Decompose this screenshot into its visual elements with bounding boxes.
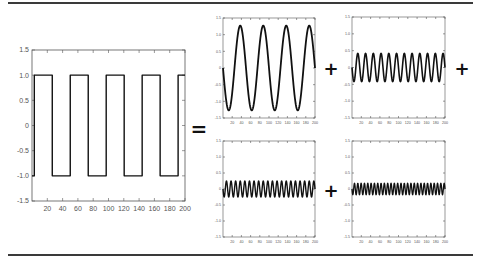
- harmonic-1-plot: 1.51.00.50-0.5-1.0-1.5204060801001201401…: [215, 16, 318, 124]
- equals-sign: =: [191, 117, 208, 141]
- y-tick-label: 0.5: [216, 50, 221, 54]
- y-tick-label: 1.5: [345, 15, 350, 19]
- x-tick-label: 100: [396, 240, 402, 244]
- x-tick-label: 120: [118, 205, 130, 212]
- y-tick-label: 0: [348, 187, 350, 191]
- x-tick-label: 60: [249, 121, 253, 125]
- y-tick-label: 1.5: [345, 139, 350, 143]
- y-tick-label: 0.5: [345, 171, 350, 175]
- x-tick-label: 140: [133, 205, 145, 212]
- x-tick-label: 180: [303, 240, 309, 244]
- plus-sign: +: [323, 180, 338, 201]
- y-tick-label: -0.5: [215, 203, 221, 207]
- x-tick-label: 20: [230, 121, 234, 125]
- x-tick-label: 20: [43, 205, 51, 212]
- y-tick-label: -0.5: [344, 83, 350, 87]
- x-tick-label: 100: [103, 205, 115, 212]
- y-tick-label: -1.0: [17, 172, 29, 179]
- x-tick-label: 20: [359, 121, 363, 125]
- x-tick-label: 80: [258, 121, 262, 125]
- y-tick-label: 0.5: [345, 49, 350, 53]
- x-tick-label: 100: [266, 240, 272, 244]
- x-tick-label: 60: [378, 121, 382, 125]
- y-tick-label: -1.0: [215, 219, 221, 223]
- y-tick-label: -1.0: [344, 219, 350, 223]
- y-tick-label: 0: [219, 66, 221, 70]
- x-tick-label: 20: [230, 240, 234, 244]
- harmonic-5-plot: 1.51.00.50-0.5-1.0-1.5204060801001201401…: [215, 139, 318, 243]
- y-tick-label: 1.0: [216, 155, 221, 159]
- x-tick-label: 200: [179, 205, 191, 212]
- x-tick-label: 200: [312, 240, 318, 244]
- x-tick-label: 80: [387, 121, 391, 125]
- y-tick-label: 1.5: [216, 16, 221, 20]
- x-tick-label: 80: [258, 240, 262, 244]
- x-tick-label: 100: [266, 121, 272, 125]
- x-tick-label: 60: [378, 240, 382, 244]
- data-line: [32, 75, 185, 176]
- y-tick-label: 0.5: [216, 171, 221, 175]
- data-line: [223, 26, 315, 111]
- x-tick-label: 120: [275, 121, 281, 125]
- harmonic-7-plot: 1.51.00.50-0.5-1.0-1.5204060801001201401…: [344, 139, 448, 243]
- plot-frame: [32, 50, 185, 201]
- x-tick-label: 40: [59, 205, 67, 212]
- x-tick-label: 180: [433, 121, 439, 125]
- x-tick-label: 160: [294, 240, 300, 244]
- y-tick-label: -1.5: [344, 116, 350, 120]
- x-tick-label: 20: [359, 240, 363, 244]
- y-tick-label: -1.0: [344, 99, 350, 103]
- y-tick-label: 1.0: [345, 32, 350, 36]
- x-tick-label: 200: [442, 240, 448, 244]
- x-tick-label: 120: [405, 121, 411, 125]
- y-tick-label: -1.5: [215, 116, 221, 120]
- x-tick-label: 180: [433, 240, 439, 244]
- x-tick-label: 180: [164, 205, 176, 212]
- x-tick-label: 140: [284, 121, 290, 125]
- x-tick-label: 60: [74, 205, 82, 212]
- square-wave-plot: 1.51.00.50-0.5-1.0-1.5204060801001201401…: [17, 46, 191, 212]
- y-tick-label: 1.0: [345, 155, 350, 159]
- x-tick-label: 120: [405, 240, 411, 244]
- y-tick-label: -0.5: [215, 83, 221, 87]
- y-tick-label: 0: [219, 187, 221, 191]
- plus-sign: +: [454, 58, 469, 79]
- x-tick-label: 120: [275, 240, 281, 244]
- x-tick-label: 40: [369, 121, 373, 125]
- y-tick-label: -1.5: [17, 197, 29, 204]
- y-tick-label: 0: [25, 122, 29, 129]
- y-tick-label: 1.5: [19, 46, 29, 53]
- x-tick-label: 40: [369, 240, 373, 244]
- x-tick-label: 140: [414, 121, 420, 125]
- harmonic-3-plot: 1.51.00.50-0.5-1.0-1.5204060801001201401…: [344, 15, 448, 124]
- y-tick-label: 0: [348, 66, 350, 70]
- y-tick-label: 1.0: [216, 33, 221, 37]
- y-tick-label: -0.5: [344, 203, 350, 207]
- data-line: [223, 181, 315, 197]
- fourier-figure: 1.51.00.50-0.5-1.0-1.5204060801001201401…: [0, 0, 482, 258]
- x-tick-label: 160: [423, 121, 429, 125]
- y-tick-label: 1.0: [19, 72, 29, 79]
- data-line: [352, 53, 445, 81]
- y-tick-label: 1.5: [216, 139, 221, 143]
- y-tick-label: -1.0: [215, 100, 221, 104]
- y-tick-label: -1.5: [215, 235, 221, 239]
- x-tick-label: 80: [387, 240, 391, 244]
- x-tick-label: 140: [284, 240, 290, 244]
- x-tick-label: 200: [312, 121, 318, 125]
- x-tick-label: 160: [423, 240, 429, 244]
- x-tick-label: 60: [249, 240, 253, 244]
- x-tick-label: 100: [396, 121, 402, 125]
- data-line: [352, 183, 445, 195]
- x-tick-label: 180: [303, 121, 309, 125]
- x-tick-label: 80: [89, 205, 97, 212]
- x-tick-label: 160: [294, 121, 300, 125]
- y-tick-label: 0.5: [19, 97, 29, 104]
- x-tick-label: 40: [239, 240, 243, 244]
- x-tick-label: 40: [239, 121, 243, 125]
- x-tick-label: 140: [414, 240, 420, 244]
- x-tick-label: 200: [442, 121, 448, 125]
- y-tick-label: -1.5: [344, 235, 350, 239]
- y-tick-label: -0.5: [17, 147, 29, 154]
- x-tick-label: 160: [149, 205, 161, 212]
